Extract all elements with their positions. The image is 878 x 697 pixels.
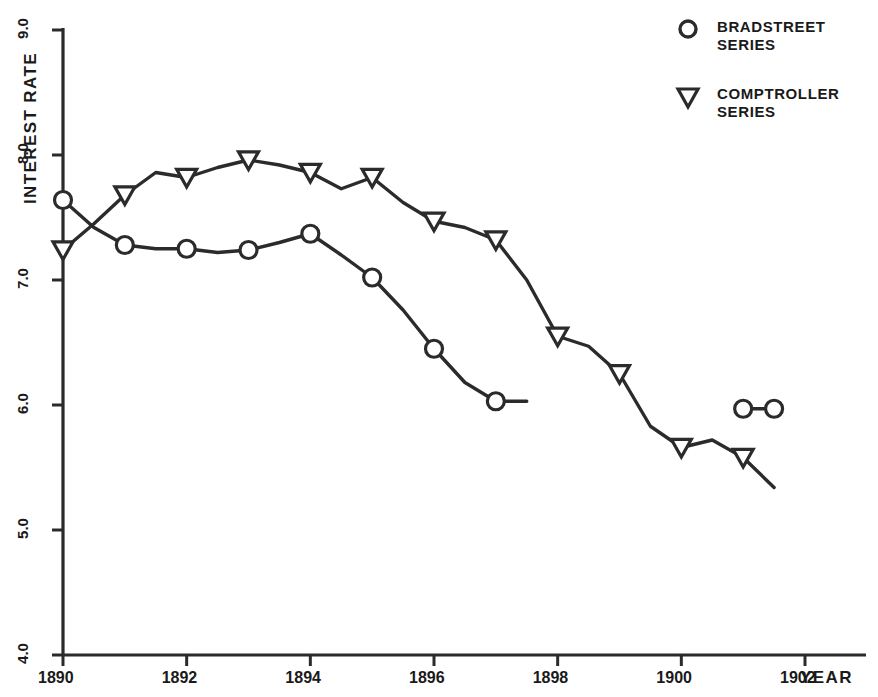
legend-label-bradstreet-line1: BRADSTREET (717, 18, 826, 35)
data-point-marker-circle (766, 400, 783, 417)
y-tick-label: 5.0 (14, 507, 31, 551)
data-point-marker-triangle (53, 242, 73, 260)
y-tick-label: 6.0 (14, 382, 31, 426)
legend-marker-group (678, 21, 698, 107)
x-tick-label: 1896 (409, 669, 445, 687)
legend-label-bradstreet-line2: SERIES (717, 36, 776, 53)
y-tick-label: 8.0 (14, 132, 31, 176)
chart-axes (52, 28, 866, 666)
legend-label-comptroller-line1: COMPTROLLER (717, 85, 839, 102)
data-point-marker-triangle (610, 366, 630, 384)
x-tick-label: 1898 (533, 669, 569, 687)
data-point-marker-circle (240, 242, 257, 259)
data-point-marker-triangle (177, 169, 197, 187)
data-point-marker-circle (735, 400, 752, 417)
legend-marker-circle (680, 21, 696, 37)
data-point-marker-circle (55, 192, 72, 209)
data-point-marker-triangle (671, 439, 691, 457)
data-point-marker-circle (116, 237, 133, 254)
legend-label-comptroller-line2: SERIES (717, 103, 776, 120)
series-line-0 (63, 200, 527, 401)
data-point-marker-circle (178, 240, 195, 257)
x-tick-label: 1890 (38, 669, 74, 687)
chart-series-group (53, 152, 783, 488)
data-point-marker-circle (302, 225, 319, 242)
legend-marker-triangle (678, 89, 698, 107)
chart-figure: INTEREST RATE YEAR 4.05.06.07.08.09.0 18… (0, 0, 878, 697)
x-tick-label: 1892 (162, 669, 198, 687)
data-point-marker-circle (426, 340, 443, 357)
data-point-marker-circle (364, 269, 381, 286)
y-axis-title: INTEREST RATE (21, 48, 41, 208)
data-point-marker-circle (487, 393, 504, 410)
series-line-2 (63, 160, 774, 488)
x-tick-label: 1902 (780, 669, 816, 687)
x-tick-label: 1894 (285, 669, 321, 687)
y-tick-label: 9.0 (14, 7, 31, 51)
x-tick-label: 1900 (656, 669, 692, 687)
data-point-marker-triangle (300, 164, 320, 182)
y-tick-label: 4.0 (14, 632, 31, 676)
y-tick-label: 7.0 (14, 257, 31, 301)
